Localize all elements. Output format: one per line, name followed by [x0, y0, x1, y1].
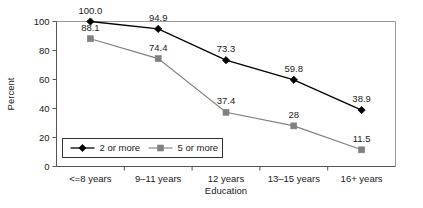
x-category-label: 9–11 years — [135, 173, 182, 184]
legend-label[interactable]: 5 or more — [178, 142, 219, 153]
data-point-label: 88.1 — [81, 22, 100, 33]
data-marker-diamond — [290, 76, 297, 83]
y-tick-label: 100 — [34, 16, 50, 27]
data-marker-diamond — [358, 106, 365, 113]
legend-label[interactable]: 2 or more — [100, 142, 141, 153]
data-point-label: 28 — [289, 109, 300, 120]
data-marker-square — [155, 56, 161, 62]
y-axis-title: Percent — [5, 77, 16, 110]
x-category-label: 12 years — [208, 173, 245, 184]
data-marker-diamond — [155, 25, 162, 32]
chart-container: 020406080100Percent<=8 years9–11 years12… — [0, 0, 423, 208]
x-axis: <=8 years9–11 years12 years13–15 years16… — [69, 167, 383, 184]
y-tick-label: 0 — [44, 161, 49, 172]
x-axis-title: Education — [205, 185, 247, 196]
y-tick-label: 60 — [39, 74, 50, 85]
y-tick-label: 80 — [39, 45, 50, 56]
data-marker-square — [291, 123, 297, 129]
data-point-label: 94.9 — [149, 12, 168, 23]
data-point-label: 100.0 — [79, 5, 103, 16]
line-chart: 020406080100Percent<=8 years9–11 years12… — [0, 0, 423, 208]
data-point-label: 11.5 — [353, 133, 371, 144]
x-category-label: <=8 years — [69, 173, 111, 184]
data-point-label: 37.4 — [217, 95, 236, 106]
series-2: 88.174.437.42811.5 — [81, 22, 370, 153]
data-point-label: 74.4 — [149, 42, 168, 53]
y-axis: 020406080100 — [34, 16, 57, 172]
data-marker-square — [158, 145, 164, 151]
data-marker-diamond — [222, 57, 229, 64]
x-category-label: 13–15 years — [268, 173, 321, 184]
data-point-label: 73.3 — [217, 43, 236, 54]
data-point-label: 59.8 — [285, 63, 304, 74]
x-category-label: 16+ years — [341, 173, 383, 184]
data-marker-square — [223, 109, 229, 115]
y-tick-label: 20 — [39, 132, 50, 143]
y-tick-label: 40 — [39, 103, 50, 114]
data-marker-square — [87, 36, 93, 42]
chart-legend[interactable]: 2 or more5 or more — [63, 139, 223, 158]
data-marker-square — [359, 147, 365, 153]
data-point-label: 38.9 — [352, 93, 371, 104]
